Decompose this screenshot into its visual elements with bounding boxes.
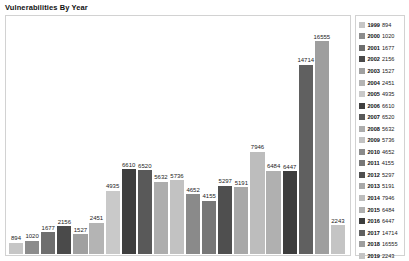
legend-item-2011[interactable]: 20114155 [359,158,402,170]
bar-rect[interactable] [186,194,200,254]
bar-value-label: 4652 [186,187,199,194]
bar-2014[interactable]: 7946 [250,143,264,254]
bar-rect[interactable] [202,201,216,254]
legend-value-label: 5736 [382,137,394,143]
bar-2003[interactable]: 1527 [73,225,87,254]
legend-swatch-icon [359,207,365,213]
bar-rect[interactable] [283,171,297,254]
legend-year-label: 2000 [368,33,380,39]
legend-item-2014[interactable]: 20147946 [359,192,402,204]
legend-year-label: 2015 [368,207,380,213]
legend-item-2005[interactable]: 20054935 [359,88,402,100]
legend-item-2000[interactable]: 20001020 [359,31,402,43]
legend-swatch-icon [359,80,365,86]
bar-rect[interactable] [57,226,71,254]
bars-layer: 8941020167721561527245149356610652056325… [6,16,350,255]
bar-2011[interactable]: 4155 [202,192,216,254]
legend-year-label: 2012 [368,172,380,178]
bar-2006[interactable]: 6610 [122,160,136,254]
bar-1999[interactable]: 894 [9,234,23,254]
bar-2001[interactable]: 1677 [41,223,55,254]
bar-value-label: 1527 [74,227,87,234]
bar-2007[interactable]: 6520 [138,161,152,254]
legend-value-label: 5191 [382,183,394,189]
legend-value-label: 1527 [382,68,394,74]
bar-rect[interactable] [315,41,329,254]
legend-year-label: 2014 [368,195,380,201]
bar-rect[interactable] [331,225,345,254]
legend-value-label: 5632 [382,126,394,132]
legend-item-2002[interactable]: 20022156 [359,54,402,66]
legend-item-1999[interactable]: 1999894 [359,19,402,31]
legend-swatch-icon [359,149,365,155]
legend-item-2012[interactable]: 20125297 [359,169,402,181]
bar-rect[interactable] [170,180,184,254]
bar-2000[interactable]: 1020 [25,232,39,254]
legend-item-2008[interactable]: 20085632 [359,123,402,135]
bar-value-label: 2451 [90,215,103,222]
bar-2019[interactable]: 2243 [331,216,345,254]
legend-value-label: 4935 [382,91,394,97]
legend-year-label: 2003 [368,68,380,74]
bar-rect[interactable] [250,152,264,254]
bar-value-label: 16555 [314,34,331,41]
bar-2002[interactable]: 2156 [57,217,71,254]
legend-item-2018[interactable]: 201816555 [359,238,402,250]
legend-year-label: 2004 [368,80,380,86]
legend-swatch-icon [359,241,365,247]
legend-item-2007[interactable]: 20076520 [359,111,402,123]
bar-value-label: 5632 [154,174,167,181]
bar-rect[interactable] [154,182,168,254]
legend-swatch-icon [359,183,365,189]
legend-value-label: 6520 [382,114,394,120]
legend-year-label: 2008 [368,126,380,132]
bar-2012[interactable]: 5297 [218,177,232,254]
bar-rect[interactable] [73,234,87,254]
legend-swatch-icon [359,91,365,97]
legend-item-2013[interactable]: 20135191 [359,181,402,193]
legend-year-label: 2019 [368,253,380,259]
legend-swatch-icon [359,68,365,74]
legend-item-2009[interactable]: 20095736 [359,134,402,146]
plot-area: 8941020167721561527245149356610652056325… [5,15,351,256]
bar-rect[interactable] [89,223,103,255]
legend-year-label: 2001 [368,45,380,51]
legend-item-2019[interactable]: 20192243 [359,250,402,261]
bar-2013[interactable]: 5191 [234,178,248,254]
bar-rect[interactable] [25,241,39,254]
bar-rect[interactable] [122,169,136,254]
legend-value-label: 16555 [382,241,398,247]
bar-2008[interactable]: 5632 [154,173,168,254]
bar-rect[interactable] [9,243,23,254]
legend-item-2004[interactable]: 20042451 [359,77,402,89]
bar-2018[interactable]: 16555 [315,32,329,254]
bar-rect[interactable] [106,191,120,254]
bar-rect[interactable] [234,187,248,254]
bar-2015[interactable]: 6484 [266,162,280,254]
legend-item-2016[interactable]: 20166447 [359,215,402,227]
legend-year-label: 2009 [368,137,380,143]
bar-2004[interactable]: 2451 [89,214,103,255]
legend-item-2003[interactable]: 20031527 [359,65,402,77]
bar-rect[interactable] [138,170,152,254]
legend-item-2010[interactable]: 20104652 [359,146,402,158]
legend-year-label: 2017 [368,230,380,236]
legend-item-2015[interactable]: 20156484 [359,204,402,216]
bar-rect[interactable] [41,232,55,254]
bar-value-label: 1020 [25,233,38,240]
legend-swatch-icon [359,253,365,259]
bar-2005[interactable]: 4935 [106,182,120,254]
bar-2017[interactable]: 14714 [299,56,313,254]
bar-2010[interactable]: 4652 [186,185,200,254]
legend-item-2001[interactable]: 20011677 [359,42,402,54]
bar-2009[interactable]: 5736 [170,171,184,254]
bar-2016[interactable]: 6447 [283,162,297,254]
bar-rect[interactable] [299,65,313,254]
legend-swatch-icon [359,230,365,236]
bar-rect[interactable] [218,186,232,254]
legend-year-label: 2005 [368,91,380,97]
bar-value-label: 4155 [202,193,215,200]
legend-item-2017[interactable]: 201714714 [359,227,402,239]
bar-rect[interactable] [266,171,280,254]
legend-item-2006[interactable]: 20066610 [359,100,402,112]
